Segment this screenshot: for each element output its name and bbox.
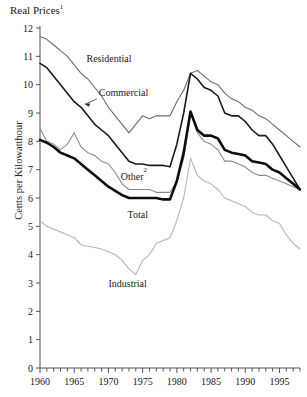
x-tick-label: 1970 — [98, 376, 118, 387]
x-tick-label: 1965 — [64, 376, 84, 387]
series-line-other — [40, 113, 300, 192]
y-tick-label: 4 — [28, 249, 33, 260]
x-tick-label: 1980 — [167, 376, 187, 387]
y-tick-label: 11 — [23, 51, 33, 62]
series-line-residential — [40, 37, 300, 148]
y-tick-label: 0 — [28, 363, 33, 374]
x-tick-label: 1995 — [269, 376, 289, 387]
y-tick-label: 2 — [28, 306, 33, 317]
x-tick-label: 1960 — [30, 376, 50, 387]
y-tick-label: 12 — [23, 23, 33, 34]
series-annotation-residential: Residential — [87, 53, 132, 64]
series-annotation-other: Other2 — [121, 166, 148, 182]
x-tick-label: 1985 — [201, 376, 221, 387]
x-axis-tick-group: 19601965197019751980198519901995 — [30, 368, 300, 387]
y-tick-label: 6 — [28, 193, 33, 204]
y-tick-label: 9 — [28, 108, 33, 119]
chart-plot-area: 0123456789101112 19601965197019751980198… — [0, 0, 307, 397]
y-tick-label: 5 — [28, 221, 33, 232]
chart-figure: Real Prices1 Cents per Kilowatthour 0123… — [0, 0, 307, 397]
series-annotation-total: Total — [128, 209, 149, 220]
y-tick-label: 3 — [28, 278, 33, 289]
x-tick-label: 1990 — [235, 376, 255, 387]
y-axis-tick-group: 0123456789101112 — [23, 23, 40, 374]
y-tick-label: 10 — [23, 79, 33, 90]
series-annotation-commercial: Commercial — [99, 87, 149, 98]
series-annotation-group: ResidentialCommercialOther2TotalIndustri… — [85, 53, 149, 289]
y-tick-label: 1 — [28, 334, 33, 345]
series-annotation-industrial: Industrial — [108, 278, 147, 289]
y-tick-label: 8 — [28, 136, 33, 147]
series-line-commercial — [40, 63, 300, 189]
series-line-total — [40, 112, 300, 200]
y-tick-label: 7 — [28, 164, 33, 175]
x-tick-label: 1975 — [133, 376, 153, 387]
data-series-group — [40, 37, 300, 275]
commercial-leader-line — [85, 99, 97, 104]
